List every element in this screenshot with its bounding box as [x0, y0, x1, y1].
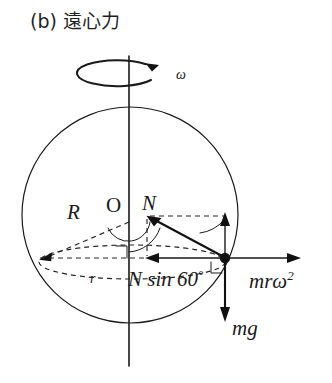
centrifugal-mr: mr [249, 269, 273, 293]
sphere-radius-arrowhead [39, 253, 52, 262]
normal-force-vector [153, 219, 224, 257]
angle-arc-60-degrees [200, 220, 224, 233]
figure-title: (b) 遠心力 [30, 10, 120, 32]
weight-force-label: mg [232, 316, 258, 340]
mass-point-dot [220, 253, 230, 263]
sphere-radius-label: R [66, 200, 80, 224]
svg-text:N sin 60°: N sin 60° [127, 267, 203, 291]
angle-arc-center-inner [129, 228, 160, 252]
rotation-direction-ellipse [77, 60, 151, 86]
normal-horizontal-component-arrowhead [145, 253, 159, 263]
normal-force-label: N [141, 191, 157, 215]
weight-force-arrowhead [220, 307, 230, 322]
sphere-radius-line [45, 222, 129, 258]
nsin-degree: ° [198, 267, 203, 282]
centrifugal-force-label: mrω2 [249, 268, 294, 293]
rotation-direction-arrowhead [146, 63, 160, 71]
svg-text:mrω2: mrω2 [249, 268, 294, 293]
center-point-label: O [106, 193, 121, 217]
normal-force-arrowhead [147, 216, 162, 227]
circle-radius-label: r [90, 271, 96, 286]
omega-label: ω [176, 67, 186, 82]
physics-diagram-svg: ω [0, 0, 332, 383]
nsin-text: N sin 60 [127, 267, 199, 291]
right-angle-mark-center [116, 246, 127, 258]
normal-vertical-component-arrowhead [220, 212, 230, 226]
right-angle-mark-mass [211, 262, 222, 273]
centrifugal-exponent: 2 [287, 268, 294, 283]
centrifugal-force-figure: ω [0, 0, 332, 383]
centrifugal-omega: ω [272, 269, 287, 293]
centrifugal-force-arrowhead [287, 253, 301, 263]
normal-horizontal-component-label: N sin 60° [127, 267, 203, 291]
